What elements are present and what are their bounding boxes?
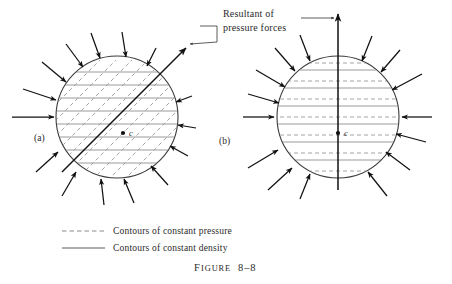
callout-line-2: pressure forces xyxy=(223,22,286,33)
panel-b: c (b) xyxy=(219,14,432,199)
panel-a-resultant-arrow xyxy=(62,48,186,172)
caption-prefix-rest: IGURE xyxy=(201,264,231,273)
panel-b-label: (b) xyxy=(219,136,230,147)
figure-page: c (a) xyxy=(0,0,452,284)
legend: Contours of constant pressure Contours o… xyxy=(62,226,232,253)
panel-b-center-label: c xyxy=(344,128,348,138)
panel-b-center-dot xyxy=(336,131,340,135)
panel-a: c (a) xyxy=(0,32,244,205)
figure-caption: F IGURE 8–8 xyxy=(194,262,256,273)
panel-a-contours xyxy=(0,60,244,190)
callout-leader-left xyxy=(190,26,217,44)
legend-label-density: Contours of constant density xyxy=(113,243,228,253)
callout-line-1: Resultant of xyxy=(223,8,274,19)
legend-item-density: Contours of constant density xyxy=(62,243,228,253)
figure-canvas: c (a) xyxy=(0,0,452,284)
panel-a-label: (a) xyxy=(34,133,45,144)
caption-prefix-letter: F xyxy=(194,262,201,273)
panel-a-center-label: c xyxy=(129,128,133,138)
caption-number: 8–8 xyxy=(238,262,256,273)
panel-a-pressure-contours xyxy=(0,60,244,190)
legend-item-pressure: Contours of constant pressure xyxy=(62,226,232,236)
callout-annotation: Resultant of pressure forces xyxy=(190,8,334,44)
panel-a-center-dot xyxy=(121,131,125,135)
legend-label-pressure: Contours of constant pressure xyxy=(113,226,232,236)
